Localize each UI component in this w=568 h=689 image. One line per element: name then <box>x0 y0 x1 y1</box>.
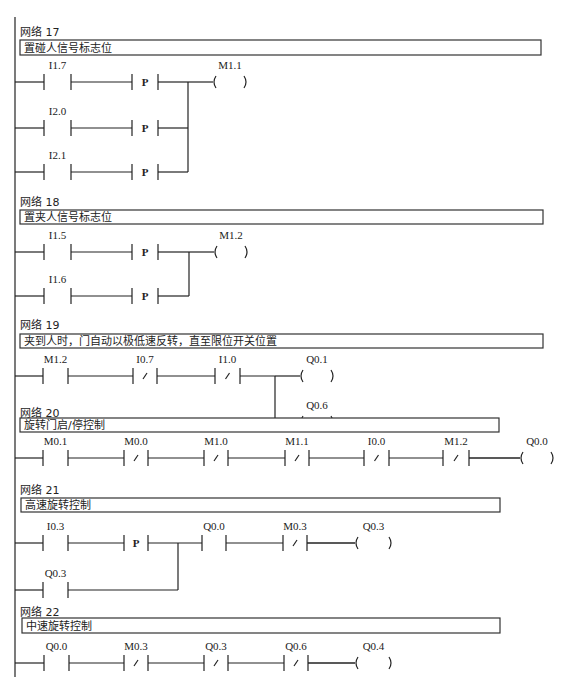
normally-closed-contact[interactable]: M1.2 <box>443 435 469 466</box>
contact-address: Q0.0 <box>203 520 225 532</box>
network-comment: 高速旋转控制 <box>25 498 91 512</box>
ladder-diagram: 网络 17置碰人信号标志位I1.7PI2.0PI2.1PM1.1网络 18置夹人… <box>0 0 568 689</box>
edge-label: P <box>133 537 140 549</box>
contact-address: M0.3 <box>124 640 148 652</box>
network-comment: 置夹人信号标志位 <box>24 210 112 224</box>
network-19: 网络 19夹到人时，门自动以极低速反转，直至限位开关位置M1.2I0.7I1.0… <box>15 318 543 428</box>
network-title: 网络 19 <box>20 318 60 332</box>
output-coil[interactable]: Q0.1 <box>275 353 333 382</box>
contact-address: M0.3 <box>283 520 307 532</box>
coil-address: Q0.3 <box>363 520 385 532</box>
network-18: 网络 18置夹人信号标志位I1.5PI1.6PM1.2 <box>15 195 543 304</box>
normally-closed-contact[interactable]: I0.0 <box>364 435 389 466</box>
network-17: 网络 17置碰人信号标志位I1.7PI2.0PI2.1PM1.1 <box>15 25 541 180</box>
normally-open-contact[interactable]: I1.6 <box>44 273 71 304</box>
rung: Q0.3 <box>15 567 178 598</box>
normally-closed-contact[interactable]: Q0.6 <box>284 640 308 671</box>
rung: I2.1P <box>15 149 188 180</box>
network-title: 网络 18 <box>20 195 60 209</box>
normally-open-contact[interactable]: Q0.3 <box>43 567 68 598</box>
positive-edge-contact[interactable]: P <box>132 120 158 136</box>
network-comment-box[interactable] <box>21 498 500 512</box>
contact-address: I1.5 <box>49 229 67 241</box>
contact-address: I0.0 <box>368 435 386 447</box>
rung: M0.1M0.0M1.0M1.1I0.0M1.2 <box>15 435 520 466</box>
contact-address: M0.0 <box>124 435 148 447</box>
contact-address: M1.1 <box>285 435 309 447</box>
contact-address: I0.7 <box>136 353 154 365</box>
normally-closed-contact[interactable]: M1.0 <box>204 435 228 466</box>
normally-open-contact[interactable]: I1.7 <box>44 59 71 90</box>
normally-closed-contact[interactable]: I0.7 <box>133 353 157 384</box>
rung: Q0.0M0.3Q0.3Q0.6 <box>15 640 355 671</box>
normally-open-contact[interactable]: Q0.0 <box>202 520 226 551</box>
edge-label: P <box>142 122 149 134</box>
rung: I1.5P <box>15 229 189 260</box>
contact-address: Q0.6 <box>285 640 307 652</box>
normally-open-contact[interactable]: M0.1 <box>43 435 68 466</box>
normally-closed-contact[interactable]: M1.1 <box>285 435 309 466</box>
network-comment: 旋转门启/停控制 <box>24 418 105 432</box>
contact-address: I1.7 <box>49 59 67 71</box>
normally-open-contact[interactable]: Q0.0 <box>44 640 69 671</box>
network-comment-box[interactable] <box>22 618 500 633</box>
network-title: 网络 21 <box>20 483 60 497</box>
contact-address: I2.1 <box>49 149 66 161</box>
normally-open-contact[interactable]: I2.1 <box>44 149 71 180</box>
normally-closed-contact[interactable]: M0.3 <box>124 640 148 671</box>
contact-address: M0.1 <box>44 435 68 447</box>
positive-edge-contact[interactable]: P <box>132 244 158 260</box>
network-comment: 夹到人时，门自动以极低速反转，直至限位开关位置 <box>24 334 277 348</box>
network-comment: 中速旋转控制 <box>26 619 92 633</box>
network-22: 网络 22中速旋转控制Q0.0M0.3Q0.3Q0.6Q0.4 <box>15 605 500 671</box>
coil-address: Q0.4 <box>363 640 385 652</box>
network-20: 网络 20旋转门启/停控制M0.1M0.0M1.0M1.1I0.0M1.2Q0.… <box>15 406 553 466</box>
contact-address: Q0.3 <box>45 567 67 579</box>
positive-edge-contact[interactable]: P <box>124 535 148 551</box>
coil-address: Q0.6 <box>306 399 328 411</box>
contact-address: M1.2 <box>44 353 68 365</box>
normally-open-contact[interactable]: I0.3 <box>43 520 68 551</box>
contact-address: I1.0 <box>219 353 237 365</box>
rung: I2.0P <box>15 105 188 136</box>
edge-label: P <box>142 246 149 258</box>
contact-address: M1.0 <box>204 435 228 447</box>
normally-closed-contact[interactable]: Q0.3 <box>204 640 228 671</box>
rung: I0.3PQ0.0M0.3 <box>15 520 355 551</box>
rung: I1.7P <box>15 59 188 90</box>
output-coil[interactable]: Q0.0 <box>469 435 553 464</box>
output-coil[interactable]: Q0.3 <box>307 520 391 549</box>
coil-address: M1.1 <box>218 59 242 71</box>
contact-address: I0.3 <box>47 520 65 532</box>
edge-label: P <box>142 166 149 178</box>
edge-label: P <box>142 76 149 88</box>
normally-closed-contact[interactable]: I1.0 <box>215 353 240 384</box>
network-title: 网络 17 <box>20 25 60 39</box>
normally-open-contact[interactable]: I2.0 <box>44 105 71 136</box>
normally-closed-contact[interactable]: M0.3 <box>283 520 307 551</box>
contact-address: Q0.3 <box>205 640 227 652</box>
rung: M1.2I0.7I1.0 <box>15 353 275 384</box>
positive-edge-contact[interactable]: P <box>132 164 158 180</box>
rung: I1.6P <box>15 273 189 304</box>
edge-label: P <box>142 290 149 302</box>
normally-open-contact[interactable]: M1.2 <box>43 353 68 384</box>
contact-address: Q0.0 <box>46 640 68 652</box>
coil-address: M1.2 <box>219 229 243 241</box>
network-21: 网络 21高速旋转控制I0.3PQ0.0M0.3Q0.3Q0.3 <box>15 483 500 598</box>
positive-edge-contact[interactable]: P <box>132 74 158 90</box>
positive-edge-contact[interactable]: P <box>132 288 158 304</box>
output-coil[interactable]: M1.2 <box>189 229 247 258</box>
output-coil[interactable]: Q0.4 <box>308 640 391 669</box>
contact-address: I1.6 <box>49 273 67 285</box>
contact-address: M1.2 <box>444 435 468 447</box>
coil-address: Q0.1 <box>306 353 328 365</box>
coil-address: Q0.0 <box>526 435 548 447</box>
contact-address: I2.0 <box>49 105 67 117</box>
network-title: 网络 22 <box>20 605 60 619</box>
network-comment: 置碰人信号标志位 <box>24 41 112 55</box>
output-coil[interactable]: M1.1 <box>188 59 246 88</box>
normally-open-contact[interactable]: I1.5 <box>44 229 71 260</box>
normally-closed-contact[interactable]: M0.0 <box>124 435 148 466</box>
